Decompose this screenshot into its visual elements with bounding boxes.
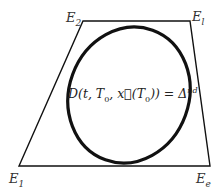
corner-label-top-left: E2 bbox=[66, 11, 81, 28]
corner-label-bottom-left: E1 bbox=[9, 172, 24, 189]
corner-label-bottom-right: Ee bbox=[196, 172, 211, 189]
distance-formula: D(t, T0, x⃗(T0)) = Δnd bbox=[68, 87, 198, 104]
corner-label-top-right: El bbox=[192, 10, 204, 27]
